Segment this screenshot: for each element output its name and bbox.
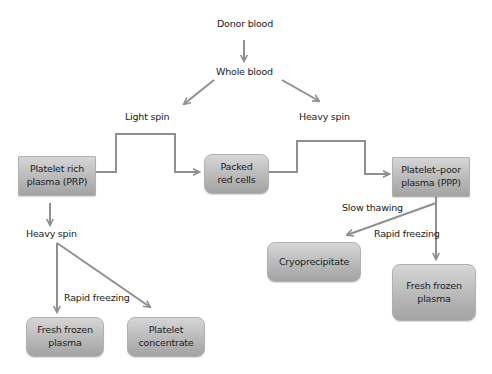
node-fresh-frozen-plasma-right: Fresh frozen plasma xyxy=(392,264,476,321)
label-heavy-spin-top: Heavy spin xyxy=(299,112,350,122)
node-prp-line1: Platelet rich xyxy=(27,163,88,176)
node-platelet-rich-plasma: Platelet rich plasma (PRP) xyxy=(18,156,96,196)
node-packed-red-cells: Packed red cells xyxy=(204,154,269,194)
node-rbc-line1: Packed xyxy=(217,161,255,174)
label-whole-blood: Whole blood xyxy=(216,67,273,77)
connector-rbc-to-ppp xyxy=(268,141,389,174)
node-cryo-line1: Cryoprecipitate xyxy=(279,256,349,269)
node-prp-line2: plasma (PRP) xyxy=(27,176,88,189)
node-platelet-poor-plasma: Platelet–poor plasma (PPP) xyxy=(392,157,470,197)
node-ffp-left-line2: plasma xyxy=(37,337,93,350)
label-heavy-spin-left: Heavy spin xyxy=(26,229,77,239)
node-rbc-line2: red cells xyxy=(217,174,255,187)
node-pc-line1: Platelet xyxy=(139,324,194,337)
arrow-whole-to-light-spin xyxy=(184,80,214,104)
label-slow-thawing: Slow thawing xyxy=(342,203,403,213)
label-rapid-freezing-right: Rapid freezing xyxy=(374,229,440,239)
node-platelet-concentrate: Platelet concentrate xyxy=(127,317,205,357)
label-donor-blood: Donor blood xyxy=(217,19,273,29)
node-ffp-left-line1: Fresh frozen xyxy=(37,324,93,337)
label-light-spin: Light spin xyxy=(125,112,169,122)
node-pc-line2: concentrate xyxy=(139,337,194,350)
node-fresh-frozen-plasma-left: Fresh frozen plasma xyxy=(26,317,104,357)
node-cryoprecipitate: Cryoprecipitate xyxy=(267,242,361,282)
node-ffp-right-line2: plasma xyxy=(406,293,462,306)
node-ppp-line1: Platelet–poor xyxy=(401,164,461,177)
node-ppp-line2: plasma (PPP) xyxy=(401,177,461,190)
connector-prp-to-rbc xyxy=(96,134,199,172)
arrow-whole-to-heavy-spin xyxy=(282,80,319,101)
label-rapid-freezing-left: Rapid freezing xyxy=(64,293,130,303)
node-ffp-right-line1: Fresh frozen xyxy=(406,280,462,293)
